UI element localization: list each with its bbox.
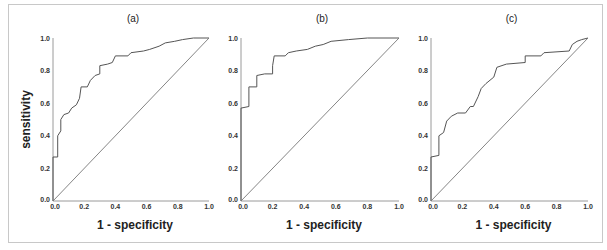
x-tick-label: 0.8 bbox=[363, 203, 373, 210]
roc-panel-b: (b)0.00.20.40.60.81.00.00.20.40.60.81.01… bbox=[228, 13, 404, 232]
y-tick-label: 0.2 bbox=[418, 165, 428, 172]
y-tick-label: 0.2 bbox=[228, 165, 238, 172]
panel-title: (c) bbox=[506, 13, 518, 24]
roc-figure: (a)0.00.20.40.60.81.00.00.20.40.60.81.01… bbox=[0, 0, 607, 250]
roc-panel-a: (a)0.00.20.40.60.81.00.00.20.40.60.81.01… bbox=[19, 13, 214, 232]
y-tick-label: 0.4 bbox=[418, 132, 428, 139]
x-axis-label: 1 - specificity bbox=[286, 218, 362, 232]
y-tick-label: 0.6 bbox=[228, 100, 238, 107]
x-axis-label: 1 - specificity bbox=[475, 218, 551, 232]
x-axis-label: 1 - specificity bbox=[97, 218, 173, 232]
x-tick-label: 0.4 bbox=[111, 203, 121, 210]
x-tick-label: 0.0 bbox=[428, 203, 438, 210]
x-tick-label: 0.6 bbox=[331, 203, 341, 210]
x-tick-label: 1.0 bbox=[583, 203, 593, 210]
x-tick-label: 0.2 bbox=[458, 203, 468, 210]
x-tick-label: 0.8 bbox=[173, 203, 183, 210]
y-tick-label: 1.0 bbox=[418, 35, 428, 42]
x-tick-label: 0.6 bbox=[142, 203, 152, 210]
reference-diagonal bbox=[431, 38, 588, 201]
roc-panel-c: (c)0.00.20.40.60.81.00.00.20.40.60.81.01… bbox=[418, 13, 593, 232]
reference-diagonal bbox=[53, 38, 209, 201]
y-tick-label: 0.8 bbox=[228, 67, 238, 74]
x-tick-label: 0.4 bbox=[299, 203, 309, 210]
y-tick-label: 1.0 bbox=[40, 35, 50, 42]
y-tick-label: 1.0 bbox=[228, 35, 238, 42]
x-tick-label: 0.2 bbox=[79, 203, 89, 210]
y-tick-label: 0.2 bbox=[40, 165, 50, 172]
x-tick-label: 0.2 bbox=[268, 203, 278, 210]
reference-diagonal bbox=[241, 38, 399, 201]
y-tick-label: 0.8 bbox=[40, 67, 50, 74]
x-tick-label: 0.0 bbox=[50, 203, 60, 210]
x-tick-label: 0.6 bbox=[520, 203, 530, 210]
x-tick-label: 0.8 bbox=[552, 203, 562, 210]
y-tick-label: 0.0 bbox=[418, 196, 428, 203]
panel-title: (a) bbox=[127, 13, 139, 24]
x-tick-label: 1.0 bbox=[204, 203, 214, 210]
y-tick-label: 0.0 bbox=[40, 196, 50, 203]
x-tick-label: 1.0 bbox=[394, 203, 404, 210]
panel-title: (b) bbox=[316, 13, 328, 24]
y-tick-label: 0.6 bbox=[40, 100, 50, 107]
y-axis-label: sensitivity bbox=[19, 90, 33, 149]
y-tick-label: 0.4 bbox=[40, 132, 50, 139]
x-tick-label: 0.4 bbox=[489, 203, 499, 210]
y-tick-label: 0.4 bbox=[228, 132, 238, 139]
y-tick-label: 0.6 bbox=[418, 100, 428, 107]
y-tick-label: 0.8 bbox=[418, 67, 428, 74]
x-tick-label: 0.0 bbox=[238, 203, 248, 210]
y-tick-label: 0.0 bbox=[228, 196, 238, 203]
